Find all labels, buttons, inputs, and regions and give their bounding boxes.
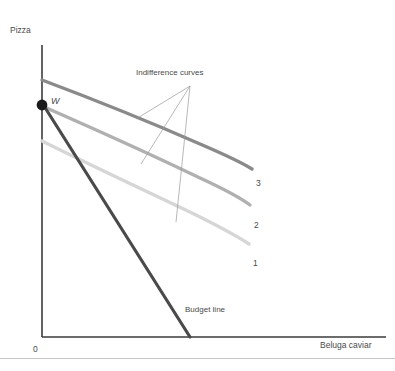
- axes-group: [42, 45, 386, 337]
- leader-line-to-curve-1: [176, 86, 190, 222]
- curve-label-2: 2: [254, 220, 259, 230]
- curve-label-1: 1: [253, 258, 258, 268]
- indifference-curve-figure: Pizza Beluga caviar 0 W Indifference cur…: [0, 0, 395, 371]
- endowment-point-label: W: [51, 96, 61, 106]
- leader-line-to-curve-2: [141, 86, 190, 164]
- indifference-curves-annotation: Indifference curves: [136, 68, 203, 77]
- annotation-leader-lines: [136, 86, 190, 222]
- leader-line-to-curve-3: [136, 86, 190, 119]
- curve-label-3: 3: [256, 178, 261, 188]
- endowment-point-marker: [37, 100, 48, 111]
- chart-canvas: Pizza Beluga caviar 0 W Indifference cur…: [0, 0, 395, 371]
- origin-label: 0: [33, 344, 38, 354]
- y-axis-label: Pizza: [10, 25, 31, 35]
- x-axis-label: Beluga caviar: [320, 340, 372, 350]
- budget-line-annotation: Budget line: [185, 305, 226, 314]
